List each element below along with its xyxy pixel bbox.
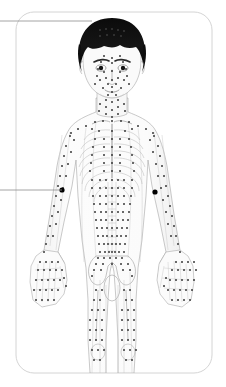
acupoint-dot[interactable]: [105, 77, 107, 79]
acupoint-dot[interactable]: [127, 309, 129, 311]
acupoint-dot[interactable]: [111, 120, 113, 122]
acupoint-dot[interactable]: [117, 195, 119, 197]
acupoint-dot[interactable]: [105, 187, 107, 189]
acupoint-dot[interactable]: [95, 339, 97, 341]
acupoint-dot[interactable]: [105, 203, 107, 205]
acupoint-dot[interactable]: [157, 145, 159, 147]
acupoint-dot[interactable]: [113, 34, 115, 36]
acupoint-dot[interactable]: [65, 285, 67, 287]
acupoint-dot[interactable]: [117, 179, 119, 181]
acupoint-dot[interactable]: [131, 179, 133, 181]
acupoint-dot[interactable]: [39, 289, 41, 291]
acupoint-dot[interactable]: [117, 77, 119, 79]
acupoint-dot[interactable]: [111, 70, 113, 72]
acupoint-dot[interactable]: [111, 86, 113, 88]
acupoint-dot[interactable]: [120, 87, 122, 89]
acupoint-dot[interactable]: [111, 251, 113, 253]
acupoint-dot[interactable]: [111, 130, 113, 132]
acupoint-dot[interactable]: [43, 251, 45, 253]
acupoint-dot[interactable]: [137, 125, 139, 127]
acupoint-dot[interactable]: [132, 162, 134, 164]
acupoint-dot[interactable]: [37, 269, 39, 271]
acupoint-dot[interactable]: [95, 219, 97, 221]
acupoint-dot[interactable]: [123, 289, 125, 291]
acupoint-dot[interactable]: [126, 227, 128, 229]
acupoint-dot[interactable]: [99, 29, 101, 31]
acupoint-dot[interactable]: [149, 139, 151, 141]
acupoint-dot[interactable]: [107, 83, 109, 85]
acupoint-dot[interactable]: [97, 349, 99, 351]
acupoint-dot[interactable]: [120, 235, 122, 237]
acupoint-dot[interactable]: [173, 289, 175, 291]
acupoint-dot[interactable]: [61, 269, 63, 271]
acupoint-dot[interactable]: [120, 263, 122, 265]
acupoint-dot[interactable]: [111, 91, 113, 93]
acupoint-dot[interactable]: [121, 309, 123, 311]
acupoint-dot[interactable]: [189, 269, 191, 271]
acupoint-dot[interactable]: [96, 75, 98, 77]
acupoint-dot[interactable]: [163, 175, 165, 177]
acupoint-dot[interactable]: [115, 94, 117, 96]
acupoint-dot[interactable]: [65, 145, 67, 147]
acupoint-dot[interactable]: [106, 227, 108, 229]
acupoint-dot[interactable]: [99, 203, 101, 205]
acupoint-dot[interactable]: [41, 279, 43, 281]
acupoint-dot[interactable]: [177, 299, 179, 301]
acupoint-dot[interactable]: [119, 243, 121, 245]
acupoint-dot[interactable]: [61, 165, 63, 167]
acupoint-dot[interactable]: [111, 179, 113, 181]
acupoint-dot[interactable]: [103, 170, 105, 172]
acupoint-dot[interactable]: [121, 329, 123, 331]
acupoint-dot[interactable]: [101, 289, 103, 291]
acupoint-dot[interactable]: [105, 179, 107, 181]
acupoint-dot[interactable]: [179, 251, 181, 253]
acupoint-dot[interactable]: [117, 106, 119, 108]
acupoint-dot[interactable]: [111, 227, 113, 229]
acupoint-dot[interactable]: [51, 289, 53, 291]
acupoint-dot[interactable]: [119, 170, 121, 172]
acupoint-dot[interactable]: [145, 128, 147, 130]
acupoint-dot[interactable]: [52, 235, 54, 237]
acupoint-dot[interactable]: [67, 163, 69, 165]
acupoint-dot[interactable]: [91, 179, 93, 181]
acupoint-dot[interactable]: [57, 289, 59, 291]
acupoint-dot[interactable]: [133, 319, 135, 321]
acupoint-dot[interactable]: [45, 289, 47, 291]
acupoint-dot[interactable]: [133, 329, 135, 331]
acupoint-dot[interactable]: [161, 165, 163, 167]
acupoint-dot[interactable]: [96, 227, 98, 229]
acupoint-dot[interactable]: [111, 195, 113, 197]
acupoint-dot[interactable]: [121, 257, 123, 259]
acupoint-dot[interactable]: [73, 139, 75, 141]
acupoint-dot[interactable]: [119, 138, 121, 140]
acupoint-dot[interactable]: [55, 269, 57, 271]
acupoint-dot[interactable]: [49, 269, 51, 271]
acupoint-dot[interactable]: [60, 199, 62, 201]
acupoint-dot[interactable]: [103, 55, 105, 57]
acupoint-dot[interactable]: [102, 235, 104, 237]
acupoint-dot[interactable]: [92, 146, 94, 148]
acupoint-dot[interactable]: [121, 339, 123, 341]
acupoint-dot[interactable]: [92, 195, 94, 197]
acupoint-dot[interactable]: [103, 146, 105, 148]
acupoint-dot[interactable]: [115, 83, 117, 85]
acupoint-dot[interactable]: [98, 243, 100, 245]
acupoint-dot[interactable]: [77, 128, 79, 130]
acupoint-dot[interactable]: [152, 132, 154, 134]
acupoint-dot[interactable]: [187, 261, 189, 263]
acupoint-dot[interactable]: [177, 243, 179, 245]
acupoint-dot[interactable]: [135, 349, 137, 351]
acupoint-dot[interactable]: [111, 162, 113, 164]
acupoint-dot[interactable]: [170, 235, 172, 237]
acupoint-dot[interactable]: [103, 138, 105, 140]
acupoint-dot[interactable]: [128, 83, 130, 85]
acupoint-dot[interactable]: [183, 269, 185, 271]
acupoint-dot[interactable]: [106, 34, 108, 36]
acupoint-dot[interactable]: [130, 195, 132, 197]
acupoint-dot[interactable]: [69, 135, 71, 137]
acupoint-dot[interactable]: [125, 68, 127, 70]
acupoint-dot[interactable]: [100, 219, 102, 221]
acupoint-dot[interactable]: [70, 132, 72, 134]
acupoint-dot[interactable]: [131, 154, 133, 156]
acupoint-dot[interactable]: [123, 79, 125, 81]
